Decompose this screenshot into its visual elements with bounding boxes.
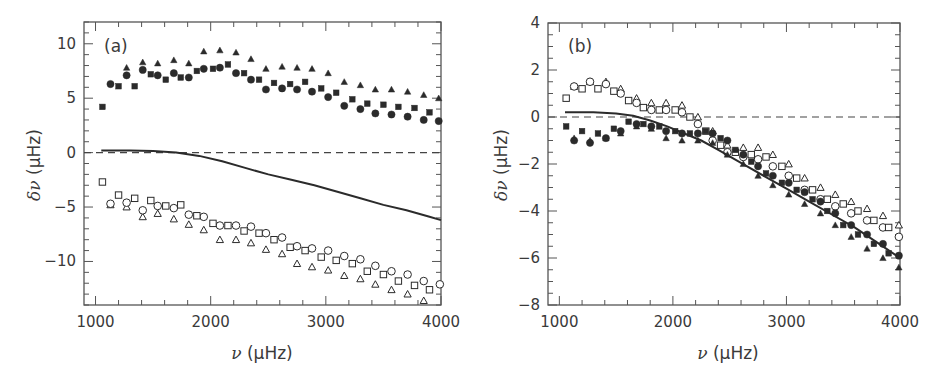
- triangle-open-marker: [740, 144, 747, 150]
- triangle-filled-marker: [341, 79, 347, 85]
- circle-filled-marker: [308, 88, 315, 95]
- circle-open-marker: [570, 83, 578, 91]
- y-tick-label: −6: [518, 249, 540, 267]
- square-filled-marker: [427, 110, 433, 116]
- square-open-marker: [148, 197, 154, 203]
- triangle-filled-marker: [404, 88, 410, 94]
- circle-filled-marker: [185, 74, 192, 81]
- triangle-open-marker: [769, 151, 776, 157]
- circle-filled-marker: [435, 117, 442, 124]
- circle-open-marker: [308, 245, 316, 253]
- triangle-filled-marker: [679, 137, 685, 143]
- triangle-open-marker: [848, 198, 855, 204]
- circle-open-marker: [420, 277, 428, 285]
- circle-open-marker: [107, 200, 115, 208]
- circle-filled-marker: [154, 72, 161, 79]
- circle-open-marker: [831, 203, 839, 211]
- y-tick-label: 4: [530, 14, 540, 32]
- y-tick-label: −4: [518, 202, 540, 220]
- circle-filled-marker: [262, 86, 269, 93]
- square-open-marker: [871, 217, 877, 223]
- triangle-filled-marker: [388, 86, 394, 92]
- triangle-filled-marker: [155, 60, 161, 66]
- square-open-marker: [595, 86, 601, 92]
- square-filled-marker: [855, 232, 861, 238]
- circle-filled-marker: [293, 86, 300, 93]
- square-filled-marker: [748, 159, 754, 165]
- circle-filled-marker: [357, 105, 364, 112]
- square-filled-marker: [241, 70, 247, 76]
- square-open-marker: [793, 175, 799, 181]
- square-filled-marker: [381, 102, 387, 108]
- axes-frame: [84, 22, 441, 305]
- circle-filled-marker: [139, 66, 146, 73]
- triangle-filled-marker: [201, 48, 207, 54]
- square-open-marker: [178, 202, 184, 208]
- square-filled-marker: [302, 79, 308, 85]
- triangle-filled-marker: [848, 234, 854, 240]
- triangle-filled-marker: [217, 47, 223, 53]
- panel-a-x-axis-label: ν (μHz): [231, 343, 293, 363]
- circle-open-marker: [602, 80, 610, 88]
- square-open-marker: [563, 95, 569, 101]
- circle-filled-marker: [785, 179, 792, 186]
- square-open-marker: [194, 213, 200, 219]
- x-tick-label: 1000: [76, 313, 114, 331]
- triangle-filled-marker: [817, 210, 823, 216]
- circle-open-marker: [633, 99, 641, 107]
- circle-filled-marker: [724, 137, 731, 144]
- circle-open-marker: [863, 217, 871, 225]
- square-open-marker: [855, 208, 861, 214]
- square-filled-marker: [148, 71, 154, 77]
- y-tick-label: 0: [530, 108, 540, 126]
- circle-open-marker: [662, 106, 670, 114]
- triangle-filled-marker: [357, 82, 363, 88]
- square-open-marker: [748, 151, 754, 157]
- square-open-marker: [809, 187, 815, 193]
- circle-filled-marker: [278, 85, 285, 92]
- square-filled-marker: [256, 77, 262, 83]
- y-tick-label: 5: [66, 89, 76, 107]
- square-filled-marker: [626, 119, 632, 125]
- square-filled-marker: [641, 121, 647, 127]
- circle-open-marker: [694, 120, 702, 128]
- square-filled-marker: [350, 96, 356, 102]
- circle-open-marker: [617, 90, 625, 98]
- triangle-open-marker: [879, 212, 886, 218]
- triangle-filled-marker: [248, 56, 254, 62]
- circle-filled-marker: [817, 198, 824, 205]
- circle-open-marker: [170, 204, 178, 212]
- square-filled-marker: [271, 80, 277, 86]
- x-tick-label: 4000: [422, 313, 460, 331]
- triangle-filled-marker: [186, 60, 192, 66]
- circle-filled-marker: [740, 151, 747, 158]
- circle-open-marker: [754, 156, 762, 164]
- y-tick-label: −5: [54, 198, 76, 216]
- circle-filled-marker: [325, 94, 332, 101]
- square-filled-marker: [703, 128, 709, 134]
- circle-filled-marker: [170, 70, 177, 77]
- square-open-marker: [717, 142, 723, 148]
- circle-filled-marker: [216, 64, 223, 71]
- circle-open-marker: [895, 233, 903, 241]
- square-open-marker: [640, 104, 646, 110]
- square-filled-marker: [396, 104, 402, 110]
- square-open-marker: [885, 224, 891, 230]
- triangle-filled-marker: [801, 201, 807, 207]
- square-open-marker: [287, 244, 293, 250]
- square-filled-marker: [225, 62, 231, 68]
- square-open-marker: [131, 195, 137, 201]
- triangle-open-marker: [232, 236, 239, 242]
- panel-a-chart: 1000200030004000−10−50510 (a) ν (μHz) δν…: [0, 0, 470, 377]
- triangle-open-marker: [262, 246, 269, 252]
- square-filled-marker: [194, 68, 200, 74]
- triangle-open-marker: [216, 236, 223, 242]
- circle-open-marker: [357, 255, 365, 263]
- triangle-open-marker: [357, 275, 364, 281]
- triangle-filled-marker: [123, 65, 129, 71]
- square-open-marker: [302, 247, 308, 253]
- circle-filled-marker: [801, 189, 808, 196]
- square-open-marker: [99, 179, 105, 185]
- circle-open-marker: [293, 242, 301, 250]
- triangle-open-marker: [200, 226, 207, 232]
